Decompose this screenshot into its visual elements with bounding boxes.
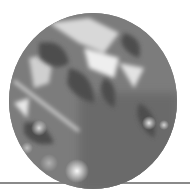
- circular-leaf-photo: [9, 13, 177, 189]
- leaf-photo-illustration: [9, 13, 177, 189]
